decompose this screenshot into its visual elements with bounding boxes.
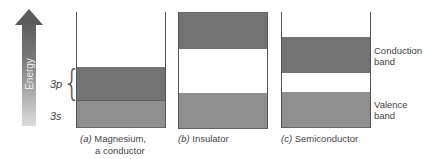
panel-insulator bbox=[178, 12, 268, 129]
panel-semiconductor bbox=[281, 12, 371, 128]
valence-label-line2: band bbox=[374, 110, 408, 121]
valence-label-line1: Valence bbox=[374, 99, 408, 110]
caption-a-line2: a conductor bbox=[95, 145, 145, 156]
caption-c: (c) Semiconductor bbox=[281, 133, 358, 144]
conduction-band-label: Conduction band bbox=[374, 45, 422, 67]
caption-a-line1: Magnesium, bbox=[94, 133, 146, 144]
band-3s bbox=[77, 101, 165, 127]
conduction-label-line2: band bbox=[374, 56, 422, 67]
label-3s: 3s bbox=[50, 111, 62, 122]
energy-label: Energy bbox=[24, 58, 35, 90]
caption-c-text: Semiconductor bbox=[295, 133, 358, 144]
energy-arrow-head bbox=[15, 9, 43, 25]
caption-b-letter: (b) bbox=[178, 133, 190, 144]
caption-c-letter: (c) bbox=[281, 133, 292, 144]
label-3p: 3p bbox=[50, 79, 62, 90]
conduction-label-line1: Conduction bbox=[374, 45, 422, 56]
valence-band-c bbox=[282, 92, 370, 127]
caption-b: (b) Insulator bbox=[178, 133, 229, 144]
caption-a-letter: (a) bbox=[80, 133, 92, 144]
band-3p bbox=[77, 67, 165, 101]
panel-magnesium bbox=[76, 12, 166, 128]
valence-band-label: Valence band bbox=[374, 99, 408, 121]
brace-icon: { bbox=[63, 67, 81, 102]
caption-a: (a) Magnesium, bbox=[80, 133, 146, 144]
conduction-band-c bbox=[282, 37, 370, 73]
conduction-band-b bbox=[179, 13, 267, 49]
valence-band-b bbox=[179, 93, 267, 128]
caption-b-text: Insulator bbox=[192, 133, 228, 144]
